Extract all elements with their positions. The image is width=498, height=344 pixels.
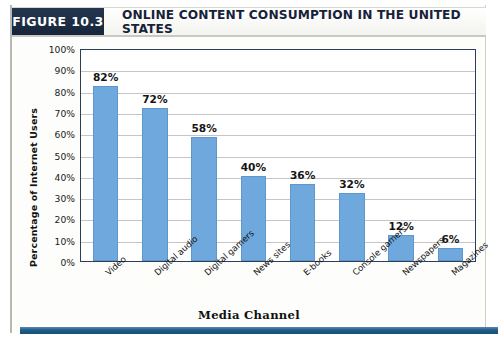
bar-value-label: 36% [290,169,315,181]
y-axis-title-text: Percentage of Internet Users [29,107,40,266]
x-axis-title: Media Channel [12,308,486,322]
bottom-rule [20,327,498,334]
bar-slot: 32% [327,50,376,261]
bar-slot: 82% [81,50,130,261]
bar-value-label: 82% [93,71,118,83]
figure-title: ONLINE CONTENT CONSUMPTION IN THE UNITED… [104,8,486,35]
bar[interactable] [142,108,168,261]
y-axis-tick: 10% [55,235,75,246]
chart-region: Percentage of Internet Users 100%90%80%7… [12,36,486,321]
bar[interactable] [339,193,365,261]
y-axis-tick: 30% [55,193,75,204]
y-axis-tick: 80% [55,86,75,97]
figure-header: FIGURE 10.3 ONLINE CONTENT CONSUMPTION I… [12,7,486,37]
y-axis-tick: 90% [55,65,75,76]
bar[interactable] [93,86,119,261]
figure-card: FIGURE 10.3 ONLINE CONTENT CONSUMPTION I… [10,5,486,333]
bar-series: 82%72%58%40%36%32%12%6% [81,50,475,261]
y-axis-tick: 20% [55,214,75,225]
bar-value-label: 58% [191,122,216,134]
figure-number-badge: FIGURE 10.3 [12,8,104,35]
bar-slot: 72% [130,50,179,261]
bar-slot: 36% [278,50,327,261]
bar[interactable] [290,184,316,261]
bar-value-label: 72% [142,93,167,105]
y-axis-tick-labels: 100%90%80%70%60%50%40%30%20%10%0% [42,49,78,262]
plot-area: 82%72%58%40%36%32%12%6% [80,49,476,262]
y-axis-tick: 0% [60,257,75,268]
bar-slot: 58% [180,50,229,261]
bar[interactable] [438,248,464,261]
bar-value-label: 32% [339,178,364,190]
y-axis-title: Percentage of Internet Users [26,92,42,282]
bar-slot: 6% [426,50,475,261]
y-axis-tick: 60% [55,129,75,140]
y-axis-tick: 40% [55,171,75,182]
y-axis-tick: 50% [55,150,75,161]
bar-slot: 40% [229,50,278,261]
y-axis-tick: 100% [49,44,75,55]
bar[interactable] [241,176,267,261]
bar-value-label: 40% [241,161,266,173]
y-axis-tick: 70% [55,107,75,118]
